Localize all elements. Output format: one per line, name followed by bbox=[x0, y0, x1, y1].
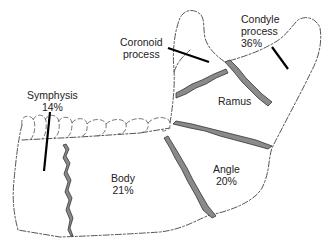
label-text: process bbox=[120, 48, 163, 60]
label-text: Angle bbox=[213, 163, 240, 175]
fracture-lines bbox=[63, 60, 272, 236]
label-coronoid-process: Coronoid process bbox=[120, 36, 163, 60]
ramus-angle-fracture bbox=[173, 121, 272, 149]
label-percent: 36% bbox=[241, 37, 280, 49]
label-text: Coronoid bbox=[120, 36, 163, 48]
condyle-pointer bbox=[272, 47, 288, 69]
label-angle: Angle 20% bbox=[213, 163, 240, 187]
symphysis-pointer bbox=[44, 112, 50, 171]
mandible-diagram: Coronoid process Condyle process 36% Ram… bbox=[0, 0, 335, 247]
mandible-illustration bbox=[0, 0, 335, 247]
label-text: Symphysis bbox=[27, 89, 78, 101]
label-text: Ramus bbox=[218, 95, 251, 107]
label-ramus: Ramus bbox=[218, 95, 251, 107]
label-text: Body bbox=[111, 172, 135, 184]
angle-fracture bbox=[164, 136, 216, 218]
coronoid-fracture bbox=[176, 69, 228, 98]
alveolar-line bbox=[22, 128, 170, 140]
label-percent: 20% bbox=[213, 175, 240, 187]
label-text: process bbox=[241, 25, 280, 37]
coronoid-pointer bbox=[168, 48, 209, 62]
label-body: Body 21% bbox=[111, 172, 135, 196]
label-text: Condyle bbox=[241, 13, 280, 25]
label-condyle-process: Condyle process 36% bbox=[241, 13, 280, 49]
label-symphysis: Symphysis 14% bbox=[27, 89, 78, 113]
body-fracture bbox=[63, 144, 73, 236]
label-percent: 14% bbox=[27, 101, 78, 113]
label-percent: 21% bbox=[111, 184, 135, 196]
